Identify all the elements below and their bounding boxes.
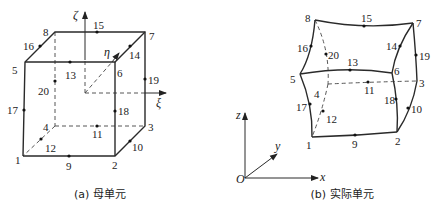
label-17: 17: [296, 101, 308, 113]
label-4: 4: [314, 88, 320, 100]
edge-7-3: [413, 23, 417, 81]
label-18: 18: [384, 94, 396, 106]
node-15: [362, 24, 365, 27]
node-14: [128, 44, 131, 47]
label-17: 17: [7, 104, 19, 116]
z-label: z: [235, 108, 241, 122]
label-8: 8: [43, 26, 49, 38]
edge-5-6: [300, 70, 392, 74]
node-16: [38, 44, 41, 47]
node-19: [414, 53, 417, 56]
node-14: [398, 44, 401, 47]
label-9: 9: [352, 138, 358, 150]
edge-8-4-hidden: [315, 20, 328, 84]
node-9: [67, 154, 70, 157]
label-10: 10: [411, 103, 423, 115]
y-label: y: [274, 139, 281, 153]
label-13: 13: [347, 56, 359, 68]
label-11: 11: [92, 128, 103, 140]
label-6: 6: [394, 65, 400, 77]
label-6: 6: [117, 67, 123, 79]
label-8: 8: [305, 12, 311, 24]
node-19: [143, 77, 146, 80]
label-20: 20: [328, 49, 340, 61]
parent-element-figure: ζ η ξ 1 2 3 4 5 6 7 8 9 10 11 12 13 14 1…: [7, 8, 166, 201]
node-17: [308, 102, 311, 105]
node-20: [53, 79, 56, 82]
label-4: 4: [43, 121, 49, 133]
node-16: [309, 44, 312, 47]
label-1: 1: [306, 139, 312, 151]
caption-a: (a) 母单元: [74, 188, 126, 201]
y-axis: [245, 154, 277, 178]
zeta-label: ζ: [73, 8, 79, 22]
node-13: [348, 68, 351, 71]
label-11: 11: [364, 84, 375, 96]
label-15: 15: [93, 19, 105, 31]
node-9: [353, 133, 356, 136]
diagram-canvas: ζ η ξ 1 2 3 4 5 6 7 8 9 10 11 12 13 14 1…: [0, 0, 442, 217]
label-9: 9: [66, 160, 72, 172]
caption-b: (b) 实际单元: [310, 187, 373, 201]
label-2: 2: [395, 135, 401, 147]
label-3: 3: [419, 77, 425, 89]
label-12: 12: [326, 113, 337, 125]
node-18: [113, 109, 116, 112]
xi-label: ξ: [156, 96, 162, 110]
node-12: [39, 137, 42, 140]
node-13: [68, 60, 71, 63]
eta-axis-inner: [85, 62, 112, 93]
label-7: 7: [416, 17, 422, 29]
label-13: 13: [65, 69, 77, 81]
actual-element-figure: O z x y 1 2 3 4 5 6: [235, 12, 431, 201]
origin-label: O: [236, 172, 245, 186]
node-17: [22, 108, 25, 111]
eta-label: η: [104, 45, 110, 59]
label-18: 18: [118, 105, 130, 117]
label-12: 12: [45, 142, 56, 154]
label-19: 19: [419, 50, 431, 62]
label-5: 5: [290, 73, 296, 85]
label-1: 1: [15, 154, 21, 166]
label-15: 15: [361, 12, 373, 24]
label-3: 3: [148, 121, 154, 133]
label-2: 2: [112, 159, 118, 171]
node-10: [406, 106, 409, 109]
x-label: x: [319, 170, 326, 184]
label-5: 5: [12, 64, 18, 76]
label-20: 20: [38, 85, 50, 97]
label-16: 16: [23, 40, 35, 52]
label-10: 10: [132, 141, 144, 153]
label-14: 14: [129, 49, 141, 61]
label-7: 7: [149, 30, 155, 42]
label-14: 14: [386, 40, 398, 52]
node-12: [321, 109, 324, 112]
label-19: 19: [148, 74, 160, 86]
label-16: 16: [297, 42, 309, 54]
